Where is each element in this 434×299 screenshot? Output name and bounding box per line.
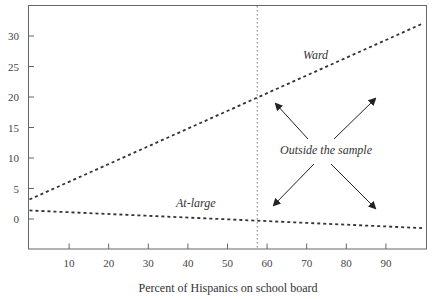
arrow-down-left-icon [274, 164, 314, 205]
x-tick-label: 80 [341, 257, 353, 269]
x-axis-title: Percent of Hispanics on school board [139, 281, 318, 295]
y-tick-label: 15 [8, 122, 20, 134]
at-large-label: At-large [175, 196, 216, 210]
y-tick-label: 5 [14, 183, 20, 195]
ward-series-line [30, 23, 424, 199]
x-tick-label: 40 [182, 257, 194, 269]
y-tick-label: 10 [8, 152, 20, 164]
x-tick-label: 60 [262, 257, 274, 269]
x-axis: 102030405060708090 [64, 244, 392, 270]
arrow-up-right-icon [334, 99, 375, 139]
y-axis: 051015202530 [8, 30, 34, 225]
arrow-down-right-icon [331, 164, 375, 208]
x-tick-label: 50 [222, 257, 234, 269]
x-tick-label: 10 [64, 257, 76, 269]
line-chart: 051015202530 102030405060708090 Ward At-… [0, 0, 434, 299]
ward-label: Ward [303, 48, 329, 62]
outside-sample-label: Outside the sample [280, 143, 373, 157]
x-tick-label: 20 [103, 257, 115, 269]
x-tick-label: 70 [301, 257, 313, 269]
at-large-series-line [30, 210, 424, 228]
y-tick-label: 0 [14, 213, 20, 225]
arrow-up-left-icon [276, 104, 308, 139]
y-tick-label: 25 [8, 61, 20, 73]
y-tick-label: 20 [8, 91, 20, 103]
y-tick-label: 30 [8, 30, 20, 42]
x-tick-label: 90 [380, 257, 392, 269]
x-tick-label: 30 [143, 257, 155, 269]
plot-frame [29, 6, 427, 250]
